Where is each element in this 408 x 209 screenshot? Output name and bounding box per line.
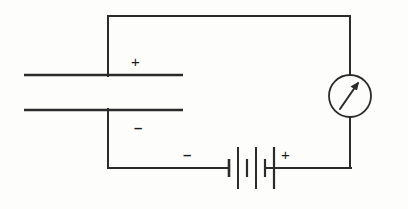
capacitor <box>24 75 183 110</box>
capacitor-bottom-plate-polarity-label: – <box>134 120 142 135</box>
ammeter <box>329 75 371 117</box>
circuit-diagram: + – – + <box>0 0 408 209</box>
battery-negative-terminal-label: – <box>183 147 191 162</box>
capacitor-top-plate-polarity-label: + <box>131 54 140 69</box>
circuit-schematic-canvas <box>0 0 408 209</box>
battery-positive-terminal-label: + <box>281 147 290 162</box>
